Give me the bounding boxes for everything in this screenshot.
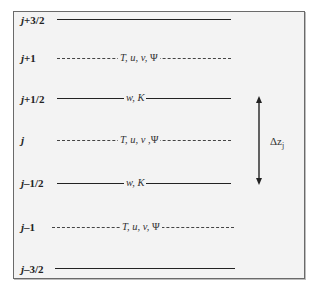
grid-diagram-frame: j+3/2 j+1 T, u, v, Ψ j+1/2 w, K j T, u, … [13,11,305,279]
double-arrow-icon [14,12,304,278]
delta-z-label: Δzj [270,135,284,150]
